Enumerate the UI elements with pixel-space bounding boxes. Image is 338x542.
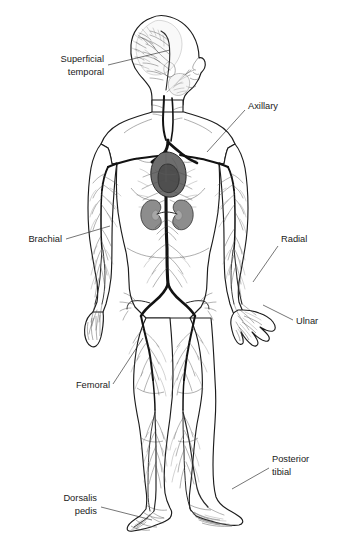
label-femoral: Femoral (76, 380, 110, 390)
label-dorsalis-pedis-line1: Dorsalis (63, 493, 97, 503)
label-posterior-tibial-line1: Posterior (272, 454, 309, 464)
label-superficial-temporal-line1: Superficial (61, 54, 104, 64)
heart-ventricle-shade (158, 164, 179, 193)
leader-posterior-tibial (232, 468, 269, 489)
label-posterior-tibial-line2: tibial (272, 467, 291, 477)
label-axillary: Axillary (248, 101, 278, 111)
anatomy-diagram: Superficial temporal Axillary Brachial R… (0, 0, 338, 542)
label-dorsalis-pedis-line2: pedis (75, 506, 98, 516)
label-radial: Radial (281, 234, 307, 244)
arterial-system-figure: Superficial temporal Axillary Brachial R… (0, 0, 338, 542)
leader-radial (253, 246, 278, 282)
label-brachial: Brachial (28, 234, 62, 244)
label-ulnar: Ulnar (296, 316, 318, 326)
right-hand-outline (231, 310, 275, 346)
heart-group (151, 152, 186, 197)
popliteal-artery-right (183, 380, 184, 410)
right-leg-outline (189, 318, 242, 525)
label-superficial-temporal-line2: temporal (68, 67, 104, 77)
